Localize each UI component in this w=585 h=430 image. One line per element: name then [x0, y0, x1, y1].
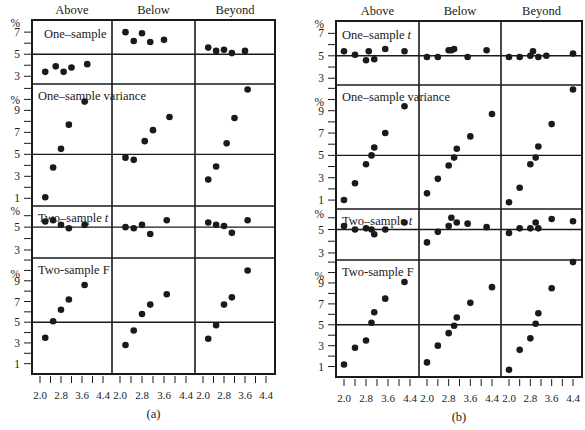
data-point [352, 51, 359, 58]
x-tick-label: 2.0 [337, 392, 351, 404]
data-point [66, 121, 73, 128]
data-point [130, 225, 137, 232]
x-tick-label: 3.6 [238, 389, 252, 401]
panel-caption: (a) [147, 407, 161, 421]
y-tick-label: 1 [318, 361, 324, 373]
data-point [483, 47, 490, 54]
data-point [223, 140, 230, 147]
data-point [570, 218, 577, 225]
data-point [60, 69, 67, 76]
data-point [242, 48, 249, 55]
data-point [464, 54, 471, 61]
data-point [163, 217, 170, 224]
x-tick-label: 2.8 [54, 389, 68, 401]
data-point [445, 223, 452, 230]
x-tick-label: 3.6 [545, 392, 559, 404]
panel-1: AboveBelowBeyond%753One–sample t%97531On… [314, 4, 582, 424]
data-point [81, 98, 88, 105]
data-point [435, 342, 442, 349]
data-point [231, 115, 238, 122]
data-point [371, 144, 378, 151]
data-point [530, 48, 537, 55]
y-tick-label: 5 [14, 148, 20, 160]
x-tick-label: 2.0 [196, 389, 210, 401]
data-point [453, 219, 460, 226]
y-tick-label: 3 [14, 70, 20, 82]
data-point [213, 48, 220, 55]
data-point [451, 46, 458, 53]
data-point [435, 229, 442, 236]
data-point [50, 164, 57, 171]
data-point [365, 48, 372, 55]
y-tick-label: 5 [14, 48, 20, 60]
data-point [516, 347, 523, 354]
data-point [535, 54, 542, 61]
data-point [382, 226, 389, 233]
data-point [368, 152, 375, 159]
data-point [506, 366, 513, 373]
y-tick-label: 1 [14, 358, 20, 370]
data-point [435, 176, 442, 183]
data-point [371, 309, 378, 316]
x-tick-label: 2.0 [113, 389, 127, 401]
data-point [445, 162, 452, 169]
data-point [122, 154, 129, 161]
data-point [58, 306, 65, 313]
data-point [401, 48, 408, 55]
x-tick-label: 2.0 [420, 392, 434, 404]
y-tick-label: 7 [14, 296, 20, 308]
y-tick-label: 1 [14, 192, 20, 204]
data-point [205, 219, 212, 226]
data-point [150, 127, 157, 134]
data-point [42, 69, 49, 76]
data-point [341, 48, 348, 55]
data-point [382, 130, 389, 137]
data-point [363, 225, 370, 232]
data-point [205, 44, 212, 51]
data-point [52, 63, 59, 70]
data-point [122, 29, 129, 36]
column-header-above: Above [55, 3, 89, 17]
column-header-above: Above [361, 4, 395, 18]
y-tick-label: 7 [318, 27, 324, 39]
data-point [229, 230, 236, 237]
x-tick-label: 2.8 [442, 392, 456, 404]
row-label: Two-sample F [342, 265, 414, 279]
data-point [527, 225, 534, 232]
data-point [50, 318, 57, 325]
data-point [548, 121, 555, 128]
data-point [122, 342, 129, 349]
y-tick-label: 3 [14, 337, 20, 349]
data-point [147, 231, 154, 238]
x-tick-label: 3.6 [157, 389, 171, 401]
data-point [516, 184, 523, 191]
data-point [213, 322, 220, 329]
data-point [213, 163, 220, 170]
data-point [221, 301, 228, 308]
data-point [371, 56, 378, 63]
data-point [221, 223, 228, 230]
data-point [363, 337, 370, 344]
data-point [464, 220, 471, 227]
data-point [244, 267, 251, 274]
x-tick-label: 3.6 [463, 392, 477, 404]
y-tick-label: 3 [318, 72, 324, 84]
y-tick-label: 5 [14, 221, 20, 233]
data-point [213, 222, 220, 229]
data-point [445, 330, 452, 337]
y-tick-label: 3 [14, 244, 20, 256]
data-point [451, 323, 458, 330]
data-point [401, 219, 408, 226]
y-tick-label: 7 [14, 26, 20, 38]
data-point [81, 282, 88, 289]
y-tick-label: 9 [14, 104, 20, 116]
data-point [66, 296, 73, 303]
data-point [489, 111, 496, 118]
data-point [363, 57, 370, 64]
y-tick-label: 3 [318, 247, 324, 259]
row-label: One–sample variance [342, 90, 450, 104]
data-point [229, 294, 236, 301]
data-point [506, 230, 513, 237]
data-point [451, 154, 458, 161]
data-point [139, 311, 146, 318]
